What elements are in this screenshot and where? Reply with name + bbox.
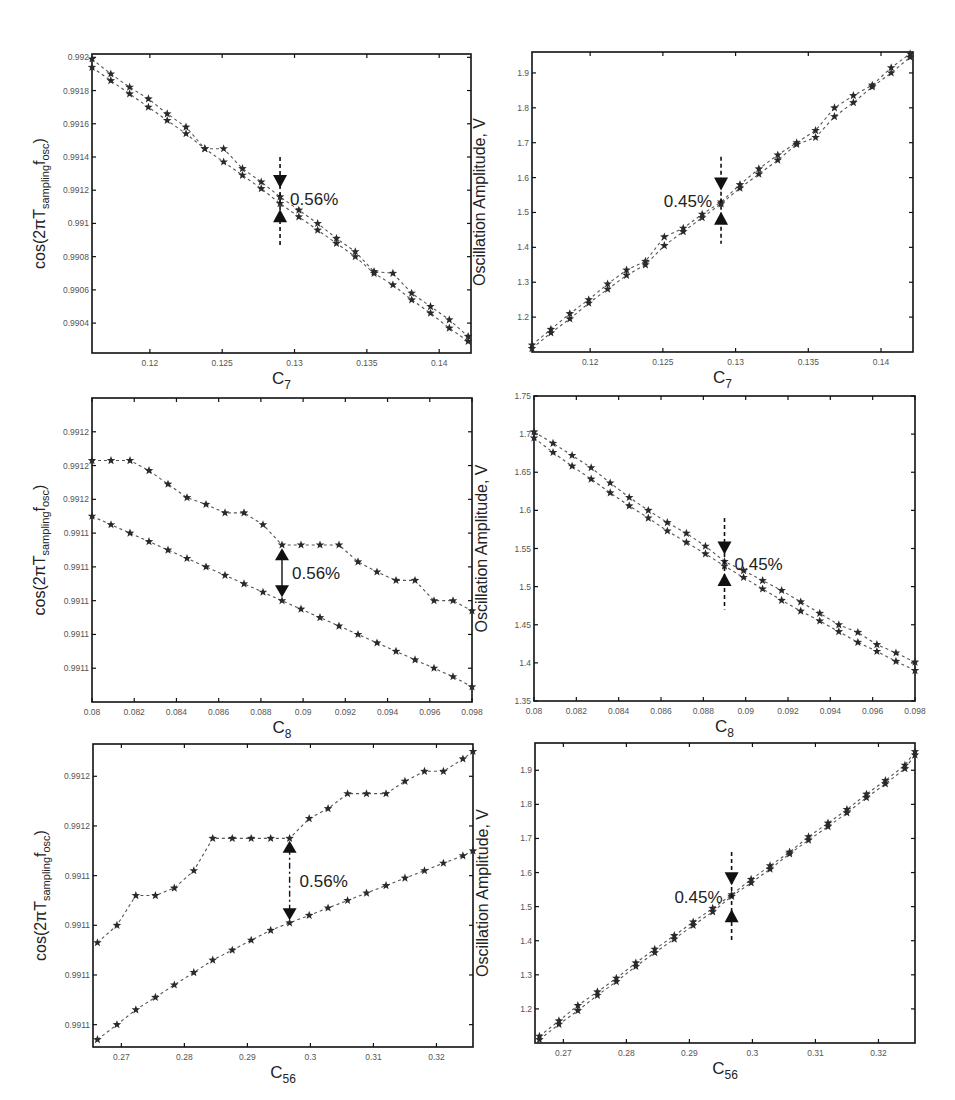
x-tick-label: 0.09 <box>295 707 312 717</box>
x-tick-label: 0.086 <box>208 707 230 717</box>
percent-label: 0.45% <box>735 555 783 574</box>
y-tick-label: 1.7 <box>520 833 532 843</box>
x-tick-label: 0.098 <box>461 707 483 717</box>
x-tick-label: 0.125 <box>652 357 674 367</box>
x-tick-label: 0.28 <box>176 1052 193 1062</box>
axes-frame <box>535 743 915 1043</box>
x-axis-label: C56 <box>712 1059 738 1082</box>
y-tick-label: 1.5 <box>517 207 529 217</box>
percent-label: 0.45% <box>674 888 722 907</box>
y-tick-label: 0.9904 <box>63 318 89 328</box>
x-tick-label: 0.31 <box>365 1052 382 1062</box>
x-axis-label: C7 <box>272 369 291 392</box>
y-axis-label: Oscillation Amplitude, V <box>471 118 488 286</box>
y-tick-label: 1.3 <box>517 277 529 287</box>
panel-c7-amplitude: 0.120.1250.130.1350.141.21.31.41.51.61.7… <box>471 49 914 391</box>
y-tick-label: 0.9906 <box>63 285 89 295</box>
x-tick-label: 0.092 <box>335 707 357 717</box>
y-tick-label: 1.6 <box>519 505 531 515</box>
y-tick-label: 0.9912 <box>63 185 89 195</box>
percent-label: 0.56% <box>300 872 348 891</box>
y-tick-label: 0.9916 <box>63 119 89 129</box>
y-tick-label: 0.9911 <box>64 562 90 572</box>
y-tick-label: 0.9912 <box>64 821 90 831</box>
x-tick-label: 0.12 <box>142 358 159 368</box>
x-tick-label: 0.13 <box>727 357 744 367</box>
y-tick-label: 1.35 <box>514 696 531 706</box>
x-tick-label: 0.125 <box>212 358 234 368</box>
y-axis-label: Oscillation Amplitude, V <box>474 809 491 977</box>
y-tick-label: 1.9 <box>520 765 532 775</box>
percent-label: 0.45% <box>664 192 712 211</box>
x-tick-label: 0.3 <box>304 1052 316 1062</box>
y-tick-label: 1.6 <box>520 868 532 878</box>
y-tick-label: 1.8 <box>520 799 532 809</box>
y-tick-label: 1.65 <box>514 467 531 477</box>
y-tick-label: 0.9911 <box>64 663 90 673</box>
x-tick-label: 0.088 <box>250 707 272 717</box>
panel-c56-cos: 0.270.280.290.30.310.320.99110.99110.991… <box>32 744 477 1086</box>
y-tick-label: 0.9912 <box>63 427 89 437</box>
x-tick-label: 0.29 <box>239 1052 256 1062</box>
panel-c56-amplitude: 0.270.280.290.30.310.321.21.31.41.51.61.… <box>474 743 919 1082</box>
y-tick-label: 1.4 <box>517 242 529 252</box>
x-tick-label: 0.088 <box>693 706 715 716</box>
x-tick-label: 0.14 <box>431 358 448 368</box>
y-axis-label: cos(2πTsamplingfosc) <box>31 485 51 616</box>
y-tick-label: 1.5 <box>519 582 531 592</box>
x-tick-label: 0.14 <box>873 357 890 367</box>
y-tick-label: 1.6 <box>517 173 529 183</box>
x-tick-label: 0.32 <box>428 1052 445 1062</box>
y-tick-label: 1.7 <box>517 138 529 148</box>
y-tick-label: 0.9912 <box>63 461 89 471</box>
x-tick-label: 0.098 <box>904 706 926 716</box>
x-tick-label: 0.28 <box>618 1048 635 1058</box>
y-tick-label: 1.3 <box>520 970 532 980</box>
y-tick-label: 0.9914 <box>63 152 89 162</box>
y-axis-label: cos(2πTsamplingfosc) <box>31 138 51 269</box>
x-tick-label: 0.135 <box>356 358 378 368</box>
x-tick-label: 0.31 <box>807 1048 824 1058</box>
x-tick-label: 0.29 <box>681 1048 698 1058</box>
axes-frame <box>93 744 473 1047</box>
panel-c8-amplitude: 0.080.0820.0840.0860.0880.090.0920.0940.… <box>473 391 926 740</box>
x-tick-label: 0.12 <box>582 357 599 367</box>
y-axis-label: Oscillation Amplitude, V <box>473 464 490 632</box>
panel-c8-cos: 0.080.0820.0840.0860.0880.090.0920.0940.… <box>31 398 483 741</box>
y-tick-label: 1.75 <box>514 391 531 401</box>
x-tick-label: 0.086 <box>650 706 672 716</box>
x-tick-label: 0.27 <box>113 1052 130 1062</box>
x-tick-label: 0.32 <box>870 1048 887 1058</box>
y-tick-label: 1.2 <box>520 1004 532 1014</box>
x-tick-label: 0.094 <box>377 707 399 717</box>
y-tick-label: 0.9911 <box>64 528 90 538</box>
x-tick-label: 0.084 <box>166 707 188 717</box>
y-tick-label: 0.9908 <box>63 252 89 262</box>
x-axis-label: C7 <box>713 368 732 391</box>
y-tick-label: 0.9911 <box>64 629 90 639</box>
x-tick-label: 0.09 <box>737 706 754 716</box>
y-tick-label: 1.8 <box>517 103 529 113</box>
y-tick-label: 0.9912 <box>64 771 90 781</box>
x-tick-label: 0.082 <box>124 707 146 717</box>
x-axis-label: C8 <box>273 718 292 741</box>
y-tick-label: 1.5 <box>520 902 532 912</box>
y-tick-label: 0.9918 <box>63 86 89 96</box>
x-tick-label: 0.3 <box>746 1048 758 1058</box>
x-axis-label: C8 <box>715 717 734 740</box>
y-tick-label: 1.4 <box>519 658 531 668</box>
y-tick-label: 1.55 <box>514 544 531 554</box>
figure-grid: 0.120.1250.130.1350.140.99040.99060.9908… <box>0 0 955 1100</box>
x-tick-label: 0.096 <box>419 707 441 717</box>
y-tick-label: 0.9911 <box>65 1020 91 1030</box>
plots-canvas: 0.120.1250.130.1350.140.99040.99060.9908… <box>0 0 955 1100</box>
percent-label: 0.56% <box>290 190 338 209</box>
y-tick-label: 0.9911 <box>64 596 90 606</box>
x-tick-label: 0.096 <box>862 706 884 716</box>
x-tick-label: 0.092 <box>777 706 799 716</box>
x-tick-label: 0.135 <box>798 357 820 367</box>
panel-c7-cos: 0.120.1250.130.1350.140.99040.99060.9908… <box>31 52 472 392</box>
x-tick-label: 0.27 <box>555 1048 572 1058</box>
y-tick-label: 1.45 <box>514 620 531 630</box>
y-tick-label: 1.7 <box>519 429 531 439</box>
